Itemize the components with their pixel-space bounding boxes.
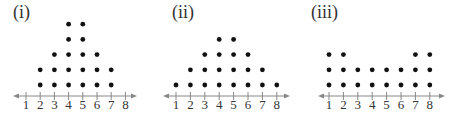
data-dot <box>399 67 404 72</box>
tick-label: 8 <box>427 97 434 112</box>
tick-label: 4 <box>369 97 376 112</box>
data-dot <box>427 67 432 72</box>
dot-plot-3: (iii)12345678 <box>0 0 453 118</box>
data-dot <box>427 52 432 57</box>
data-dot <box>355 67 360 72</box>
tick-label: 6 <box>398 97 405 112</box>
data-dot <box>384 67 389 72</box>
data-dot <box>413 67 418 72</box>
arrow-right-icon <box>439 94 445 99</box>
tick-label: 5 <box>383 97 390 112</box>
data-dot <box>327 67 332 72</box>
tick-label: 2 <box>340 97 347 112</box>
plot-canvas: 12345678 <box>0 0 453 118</box>
data-dot <box>413 52 418 57</box>
data-dot <box>327 83 332 88</box>
arrow-left-icon <box>318 94 324 99</box>
data-dot <box>355 83 360 88</box>
tick-label: 1 <box>326 97 333 112</box>
data-dot <box>370 83 375 88</box>
data-dot <box>413 83 418 88</box>
data-dot <box>384 83 389 88</box>
data-dot <box>341 67 346 72</box>
data-dot <box>370 67 375 72</box>
data-dot <box>427 83 432 88</box>
tick-label: 7 <box>412 97 419 112</box>
data-dot <box>399 83 404 88</box>
data-dot <box>341 52 346 57</box>
data-dot <box>341 83 346 88</box>
data-dot <box>327 52 332 57</box>
tick-label: 3 <box>355 97 362 112</box>
